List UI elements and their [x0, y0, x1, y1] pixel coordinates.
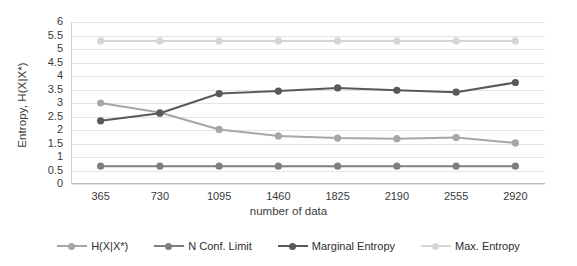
- y-tick-label: 2: [3, 124, 63, 135]
- x-tick-label: 1095: [189, 190, 249, 203]
- x-tick-label: 2555: [426, 190, 486, 203]
- gridline: [71, 184, 545, 185]
- data-point: [334, 163, 341, 170]
- legend-label: N Conf. Limit: [188, 240, 252, 252]
- data-point: [216, 90, 223, 97]
- x-tick-label: 365: [71, 190, 131, 203]
- entropy-line-chart: Entropy, H(X|X*) 65.554.543.532.521.510.…: [0, 0, 577, 266]
- data-point: [512, 139, 519, 146]
- data-point: [97, 117, 104, 124]
- legend-item[interactable]: Marginal Entropy: [278, 240, 395, 252]
- x-tick-label: 1460: [248, 190, 308, 203]
- legend-item[interactable]: N Conf. Limit: [154, 240, 252, 252]
- y-tick-label: 4: [3, 70, 63, 81]
- data-point: [453, 37, 460, 44]
- x-axis-title: number of data: [0, 205, 577, 217]
- data-point: [453, 163, 460, 170]
- legend-label: Marginal Entropy: [312, 240, 395, 252]
- y-tick-label: 5.5: [3, 30, 63, 41]
- x-tick-label: 730: [130, 190, 190, 203]
- legend-label: H(X|X*): [91, 240, 128, 252]
- legend-marker-icon: [154, 241, 184, 251]
- y-tick-label: 4.5: [3, 57, 63, 68]
- data-point: [216, 126, 223, 133]
- data-point: [393, 37, 400, 44]
- legend-marker-icon: [57, 241, 87, 251]
- data-point: [97, 99, 104, 106]
- legend-marker-icon: [278, 241, 308, 251]
- x-axis-tick-labels: 365730109514601825219025552920: [71, 190, 545, 206]
- data-point: [512, 163, 519, 170]
- series-layer: [71, 22, 545, 184]
- data-point: [393, 163, 400, 170]
- y-tick-label: 5: [3, 43, 63, 54]
- data-point: [97, 163, 104, 170]
- data-point: [275, 37, 282, 44]
- data-point: [216, 163, 223, 170]
- data-point: [216, 37, 223, 44]
- data-point: [156, 37, 163, 44]
- y-tick-label: 0.5: [3, 165, 63, 176]
- legend-item[interactable]: Max. Entropy: [421, 240, 520, 252]
- chart-legend: H(X|X*)N Conf. LimitMarginal EntropyMax.…: [0, 236, 577, 256]
- legend-label: Max. Entropy: [455, 240, 520, 252]
- legend-marker-icon: [421, 241, 451, 251]
- data-point: [453, 89, 460, 96]
- y-tick-label: 3: [3, 97, 63, 108]
- data-point: [156, 163, 163, 170]
- x-tick-label: 1825: [308, 190, 368, 203]
- x-tick-label: 2190: [367, 190, 427, 203]
- data-point: [156, 110, 163, 117]
- data-point: [334, 37, 341, 44]
- y-tick-label: 1.5: [3, 138, 63, 149]
- y-tick-label: 6: [3, 16, 63, 27]
- data-point: [334, 135, 341, 142]
- data-point: [393, 135, 400, 142]
- y-tick-label: 1: [3, 151, 63, 162]
- data-point: [275, 132, 282, 139]
- y-tick-label: 0: [3, 178, 63, 189]
- data-point: [275, 88, 282, 95]
- data-point: [512, 79, 519, 86]
- plot-area: [71, 22, 545, 184]
- data-point: [393, 87, 400, 94]
- data-point: [97, 37, 104, 44]
- y-tick-label: 2.5: [3, 111, 63, 122]
- data-point: [334, 84, 341, 91]
- legend-item[interactable]: H(X|X*): [57, 240, 128, 252]
- data-point: [512, 37, 519, 44]
- y-tick-label: 3.5: [3, 84, 63, 95]
- x-tick-label: 2920: [485, 190, 545, 203]
- y-axis-tick-labels: 65.554.543.532.521.510.50: [0, 22, 66, 184]
- data-point: [275, 163, 282, 170]
- data-point: [453, 134, 460, 141]
